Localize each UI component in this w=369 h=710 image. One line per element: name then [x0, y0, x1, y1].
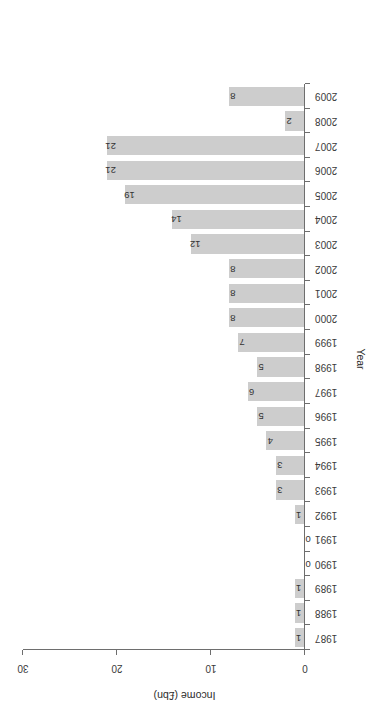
category-axis-tick — [305, 304, 310, 305]
bar-value-label: 4 — [259, 436, 281, 446]
bar-value-label: 1 — [288, 583, 310, 593]
bar-value-label: 8 — [222, 91, 244, 101]
bar-value-label: 8 — [222, 313, 244, 323]
category-axis-tick-label: 1992 — [315, 510, 359, 520]
bar — [107, 136, 304, 155]
bar-value-label: 7 — [231, 337, 253, 347]
value-axis-tick — [210, 650, 211, 655]
category-axis-tick-label: 1989 — [315, 583, 359, 593]
category-axis-tick-label: 1987 — [315, 633, 359, 643]
category-axis-tick — [305, 649, 310, 650]
category-axis-tick — [305, 403, 310, 404]
value-axis-tick — [304, 650, 305, 655]
category-axis-tick-label: 2002 — [315, 264, 359, 274]
category-axis-tick — [305, 206, 310, 207]
category-axis-tick-label: 2009 — [315, 91, 359, 101]
category-axis-tick — [305, 501, 310, 502]
bar-value-label: 1 — [288, 633, 310, 643]
category-axis-tick-label: 1990 — [315, 559, 359, 569]
category-axis-tick-label: 2000 — [315, 313, 359, 323]
value-axis-tick-label: 20 — [102, 663, 132, 674]
bar-value-label: 3 — [269, 485, 291, 495]
bar-value-label: 19 — [118, 190, 140, 200]
category-axis-tick — [305, 83, 310, 84]
bar-value-label: 5 — [250, 362, 272, 372]
value-axis-tick — [22, 650, 23, 655]
value-axis-tick — [116, 650, 117, 655]
bar-value-label: 0 — [297, 534, 319, 544]
bar — [125, 185, 304, 204]
category-axis-tick — [305, 231, 310, 232]
category-axis-tick-label: 1999 — [315, 337, 359, 347]
category-axis-tick — [305, 452, 310, 453]
category-axis-tick — [305, 354, 310, 355]
category-axis-tick-label: 2003 — [315, 239, 359, 249]
value-axis-tick-label: 30 — [8, 663, 38, 674]
category-axis-tick — [305, 575, 310, 576]
category-axis-tick-label: 2004 — [315, 214, 359, 224]
category-axis-tick — [305, 280, 310, 281]
bar-value-label: 3 — [269, 460, 291, 470]
category-axis-tick — [305, 378, 310, 379]
bar — [172, 210, 304, 229]
category-axis-tick-label: 1994 — [315, 460, 359, 470]
category-axis-tick-label: 1995 — [315, 436, 359, 446]
bar-value-label: 21 — [100, 165, 122, 175]
category-axis-tick-label: 2001 — [315, 288, 359, 298]
bar-value-label: 12 — [184, 239, 206, 249]
bar-chart-plot-area: Income (£bn) Year 0102030 19871988198919… — [0, 0, 369, 710]
category-axis-tick — [305, 428, 310, 429]
chart-figure: Income (£bn) Year 0102030 19871988198919… — [0, 0, 369, 710]
category-axis-tick-label: 2007 — [315, 141, 359, 151]
category-axis-tick — [305, 329, 310, 330]
category-axis-tick — [305, 181, 310, 182]
bar — [191, 234, 304, 253]
bar-value-label: 1 — [288, 608, 310, 618]
bar-value-label: 5 — [250, 411, 272, 421]
category-axis-tick-label: 1993 — [315, 485, 359, 495]
category-axis-tick — [305, 600, 310, 601]
value-axis-tick-label: 0 — [290, 663, 320, 674]
bar-value-label: 6 — [241, 387, 263, 397]
bar-value-label: 1 — [288, 510, 310, 520]
bar-value-label: 2 — [278, 116, 300, 126]
bar-value-label: 14 — [165, 214, 187, 224]
category-axis-tick-label: 2008 — [315, 116, 359, 126]
category-axis-tick-label: 1997 — [315, 387, 359, 397]
value-axis-title: Income (£bn) — [0, 690, 369, 702]
category-axis-tick-label: 2005 — [315, 190, 359, 200]
value-axis-tick-label: 10 — [196, 663, 226, 674]
category-axis-tick — [305, 477, 310, 478]
category-axis-tick — [305, 551, 310, 552]
bar-value-label: 8 — [222, 288, 244, 298]
bar — [107, 161, 304, 180]
category-axis-line — [23, 649, 305, 650]
bar-value-label: 8 — [222, 264, 244, 274]
bar-value-label: 0 — [297, 559, 319, 569]
category-axis-tick-label: 1996 — [315, 411, 359, 421]
bar-value-label: 21 — [100, 141, 122, 151]
category-axis-tick-label: 1991 — [315, 534, 359, 544]
category-axis-tick-label: 1988 — [315, 608, 359, 618]
category-axis-tick-label: 2006 — [315, 165, 359, 175]
category-axis-tick-label: 1998 — [315, 362, 359, 372]
category-axis-tick — [305, 108, 310, 109]
category-axis-tick — [305, 526, 310, 527]
category-axis-tick — [305, 132, 310, 133]
category-axis-tick — [305, 255, 310, 256]
category-axis-tick — [305, 157, 310, 158]
category-axis-tick — [305, 624, 310, 625]
